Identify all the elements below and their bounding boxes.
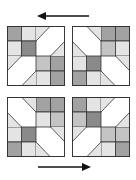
bottom-arrow-right xyxy=(36,161,92,173)
block-top-right xyxy=(72,26,130,86)
top-arrow-left xyxy=(36,10,92,22)
block-top-left xyxy=(7,26,65,86)
block-bottom-left xyxy=(7,97,65,157)
block-bottom-right xyxy=(72,97,130,157)
